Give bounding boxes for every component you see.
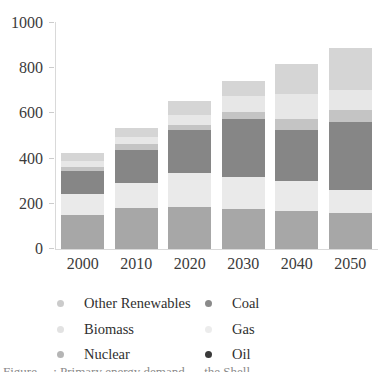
legend-label-coal: Coal xyxy=(232,295,259,312)
y-tick-mark-1000 xyxy=(49,22,54,23)
y-tick-label-800: 800 xyxy=(19,60,43,76)
bar-segment-other-renewables-2010 xyxy=(115,128,158,137)
legend-label-other-renewables: Other Renewables xyxy=(84,295,191,312)
y-tick-label-400: 400 xyxy=(19,151,43,167)
legend-item-nuclear: Nuclear xyxy=(57,346,205,363)
bar-segment-oil-2020 xyxy=(168,207,211,249)
x-tick-label-2000: 2000 xyxy=(56,255,110,273)
bar-segment-other-renewables-2050 xyxy=(329,48,372,90)
bar-segment-gas-2020 xyxy=(168,173,211,207)
y-tick-mark-0 xyxy=(49,248,54,249)
bar-segment-nuclear-2050 xyxy=(329,110,372,122)
legend-label-gas: Gas xyxy=(232,321,255,338)
bar-segment-biomass-2010 xyxy=(115,137,158,144)
bar-segment-coal-2000 xyxy=(61,171,104,194)
y-tick-mark-400 xyxy=(49,158,54,159)
bar-segment-nuclear-2030 xyxy=(222,112,265,119)
bar-slot-2020 xyxy=(163,23,217,249)
plot-area xyxy=(56,23,377,249)
bar-slot-2010 xyxy=(110,23,164,249)
bar-segment-coal-2010 xyxy=(115,150,158,184)
legend-item-oil: Oil xyxy=(205,346,259,363)
bar-2030 xyxy=(222,81,265,249)
y-tick-label-200: 200 xyxy=(19,196,43,212)
y-tick-label-0: 0 xyxy=(35,241,43,257)
bar-segment-gas-2000 xyxy=(61,194,104,216)
legend-item-biomass: Biomass xyxy=(57,321,205,338)
x-axis-labels: 200020102020203020402050 xyxy=(56,255,377,273)
legend-dot-other-renewables-icon xyxy=(57,300,64,307)
bar-segment-nuclear-2040 xyxy=(275,119,318,130)
bar-segment-other-renewables-2000 xyxy=(61,153,104,161)
bar-segment-coal-2030 xyxy=(222,119,265,177)
figure-caption: Figure …: Primary energy demand … the Sh… xyxy=(3,365,386,372)
legend-dot-coal-icon xyxy=(205,300,212,307)
x-tick-label-2030: 2030 xyxy=(217,255,271,273)
y-tick-label-1000: 1000 xyxy=(11,15,43,31)
y-axis: 02004006008001000 xyxy=(0,23,55,249)
y-tick-label-600: 600 xyxy=(19,105,43,121)
y-tick-mark-600 xyxy=(49,112,54,113)
bar-2000 xyxy=(61,153,104,249)
legend: Other RenewablesBiomassNuclearCoalGasOil xyxy=(57,291,259,368)
legend-dot-gas-icon xyxy=(205,326,212,333)
x-tick-label-2050: 2050 xyxy=(324,255,378,273)
bar-segment-gas-2050 xyxy=(329,190,372,213)
bar-segment-biomass-2030 xyxy=(222,96,265,112)
y-tick-mark-200 xyxy=(49,203,54,204)
bar-segment-oil-2040 xyxy=(275,211,318,249)
bar-segment-coal-2040 xyxy=(275,130,318,181)
legend-label-oil: Oil xyxy=(232,346,251,363)
legend-dot-oil-icon xyxy=(205,351,212,358)
legend-label-biomass: Biomass xyxy=(84,321,134,338)
bar-2010 xyxy=(115,128,158,249)
bar-segment-other-renewables-2030 xyxy=(222,81,265,97)
bar-2020 xyxy=(168,101,211,249)
bar-segment-biomass-2040 xyxy=(275,94,318,119)
bar-segment-oil-2030 xyxy=(222,209,265,249)
bar-segment-oil-2010 xyxy=(115,208,158,249)
legend-item-gas: Gas xyxy=(205,321,259,338)
x-tick-label-2010: 2010 xyxy=(110,255,164,273)
y-tick-mark-800 xyxy=(49,67,54,68)
legend-dot-nuclear-icon xyxy=(57,351,64,358)
bar-2050 xyxy=(329,48,372,249)
bar-slot-2040 xyxy=(270,23,324,249)
bar-2040 xyxy=(275,64,318,249)
bar-segment-biomass-2050 xyxy=(329,90,372,110)
bar-segment-biomass-2020 xyxy=(168,115,211,125)
bar-slot-2030 xyxy=(217,23,271,249)
legend-label-nuclear: Nuclear xyxy=(84,346,130,363)
bar-slot-2000 xyxy=(56,23,110,249)
bar-segment-gas-2040 xyxy=(275,181,318,210)
bar-segment-oil-2050 xyxy=(329,213,372,249)
bar-segment-coal-2050 xyxy=(329,122,372,190)
legend-dot-biomass-icon xyxy=(57,326,64,333)
x-tick-label-2020: 2020 xyxy=(163,255,217,273)
bar-segment-oil-2000 xyxy=(61,215,104,249)
bar-segment-gas-2010 xyxy=(115,183,158,208)
bar-slot-2050 xyxy=(324,23,378,249)
bar-segment-coal-2020 xyxy=(168,130,211,173)
bar-segment-gas-2030 xyxy=(222,177,265,210)
bar-segment-other-renewables-2020 xyxy=(168,101,211,115)
x-tick-label-2040: 2040 xyxy=(270,255,324,273)
legend-item-coal: Coal xyxy=(205,295,259,312)
x-axis-line xyxy=(55,249,378,250)
bar-segment-other-renewables-2040 xyxy=(275,64,318,95)
stacked-bar-chart-figure: 02004006008001000 2000201020202030204020… xyxy=(0,0,386,372)
legend-item-other-renewables: Other Renewables xyxy=(57,295,205,312)
